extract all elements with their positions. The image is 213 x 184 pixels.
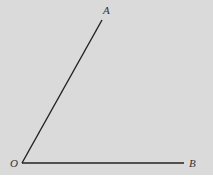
ray-oa: [22, 20, 102, 163]
label-a: A: [102, 4, 110, 16]
angle-diagram: A O B: [0, 0, 213, 184]
label-o: O: [10, 157, 18, 169]
label-b: B: [189, 157, 196, 169]
